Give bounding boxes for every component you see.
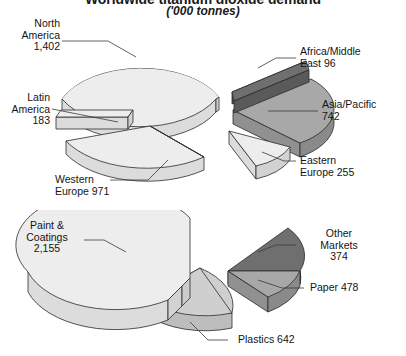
label-western-europe: Western Europe 971 (55, 174, 135, 197)
chart-page: Worldwide titanium dioxide demand ('000 … (0, 0, 406, 356)
label-paint-coatings: Paint & Coatings 2,155 (12, 220, 82, 255)
slice-paper[interactable] (228, 271, 300, 312)
label-plastics: Plastics 642 (238, 334, 328, 346)
label-asia-pacific: Asia/Pacific 742 (322, 99, 404, 122)
slice-latin-america[interactable] (56, 110, 133, 129)
label-africa-middle-east: Africa/Middle East 96 (300, 46, 400, 69)
label-other-markets: Other Markets 374 (302, 228, 376, 263)
label-north-america: North America 1,402 (14, 18, 60, 53)
label-eastern-europe: Eastern Europe 255 (300, 155, 400, 178)
label-latin-america: Latin America 183 (0, 92, 50, 127)
label-paper: Paper 478 (310, 282, 390, 294)
